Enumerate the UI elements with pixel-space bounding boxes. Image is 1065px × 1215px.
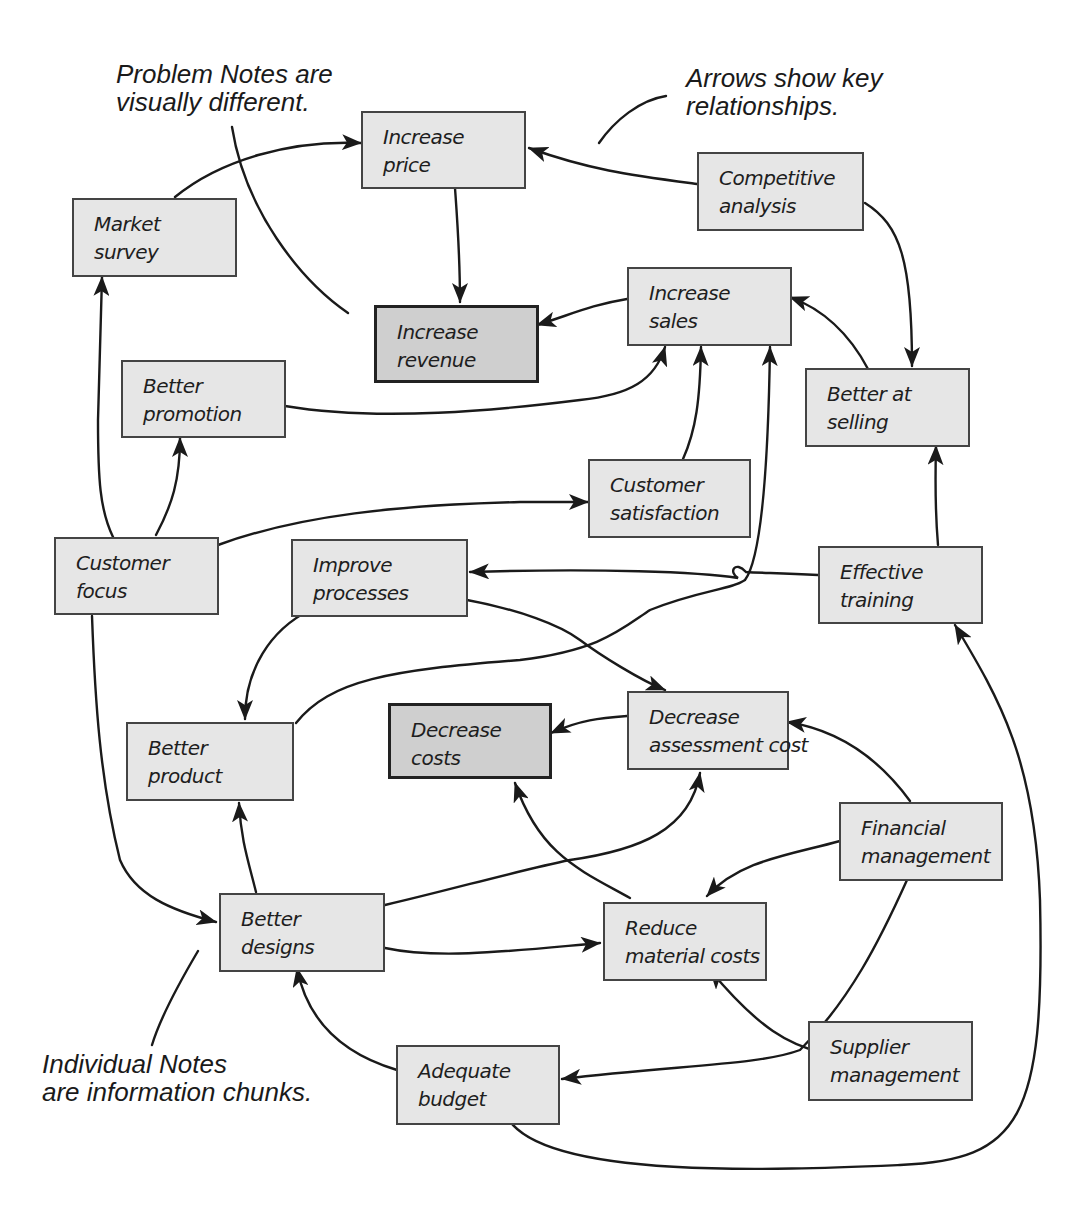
arrow-customer-satisfaction-to-increase-sales — [683, 347, 701, 459]
arrow-effective-training-to-better-at-selling — [935, 446, 938, 545]
arrow-reduce-material-costs-to-decrease-costs — [515, 783, 630, 898]
callout-text: Problem Notes are — [116, 60, 333, 88]
arrow-effective-training-to-improve-processes — [470, 567, 818, 578]
callout-text: visually different. — [116, 88, 333, 116]
note-label: Increase — [649, 279, 790, 307]
callout-text: Individual Notes — [42, 1050, 312, 1078]
callout-leader-problem — [232, 127, 348, 313]
note-supplier-management[interactable]: Supplier management — [808, 1021, 973, 1101]
note-label: management — [830, 1061, 971, 1089]
note-customer-focus[interactable]: Customer focus — [54, 537, 219, 615]
note-increase-sales[interactable]: Increase sales — [627, 267, 792, 346]
note-label: training — [840, 586, 981, 614]
note-label: promotion — [143, 400, 284, 428]
arrow-better-designs-to-decrease-assessment-cost — [385, 773, 700, 905]
arrow-better-designs-to-reduce-material-costs — [385, 943, 600, 954]
arrow-supplier-management-to-reduce-material-costs — [710, 970, 823, 1053]
note-label: sales — [649, 307, 790, 335]
note-adequate-budget[interactable]: Adequate budget — [396, 1045, 560, 1125]
callout-text: are information chunks. — [42, 1078, 312, 1106]
note-effective-training[interactable]: Effective training — [818, 546, 983, 624]
note-label: Increase — [383, 123, 524, 151]
note-label: Increase — [397, 318, 536, 346]
arrow-decrease-assessment-cost-to-decrease-costs — [551, 716, 627, 733]
arrow-competitive-analysis-to-better-at-selling — [865, 203, 912, 366]
callout-leader-individual — [152, 951, 198, 1045]
note-label: Adequate — [418, 1057, 558, 1085]
note-label: Improve — [313, 551, 466, 579]
note-increase-revenue[interactable]: Increase revenue — [374, 305, 539, 383]
callout-text: Arrows show key — [686, 64, 883, 92]
note-label: management — [861, 842, 1001, 870]
note-market-survey[interactable]: Market survey — [72, 198, 237, 277]
note-label: survey — [94, 238, 235, 266]
note-label: assessment cost — [649, 731, 787, 759]
callout-arrows: Arrows show key relationships. — [686, 64, 883, 120]
note-label: material costs — [625, 942, 765, 970]
note-financial-management[interactable]: Financial management — [839, 802, 1003, 881]
note-label: Customer — [610, 471, 749, 499]
arrow-increase-price-to-increase-revenue — [455, 188, 460, 302]
note-label: focus — [76, 577, 217, 605]
note-label: price — [383, 151, 524, 179]
note-label: budget — [418, 1085, 558, 1113]
note-label: Supplier — [830, 1033, 971, 1061]
arrow-customer-focus-to-better-promotion — [156, 438, 180, 535]
callout-individual-notes: Individual Notes are information chunks. — [42, 1050, 312, 1106]
note-better-at-selling[interactable]: Better at selling — [805, 368, 970, 447]
note-improve-processes[interactable]: Improve processes — [291, 539, 468, 617]
note-better-promotion[interactable]: Better promotion — [121, 360, 286, 438]
note-label: designs — [241, 933, 383, 961]
note-label: Reduce — [625, 914, 765, 942]
arrow-better-at-selling-to-increase-sales — [790, 297, 868, 369]
note-label: product — [148, 762, 292, 790]
callout-problem-notes: Problem Notes are visually different. — [116, 60, 333, 116]
note-competitive-analysis[interactable]: Competitive analysis — [697, 152, 864, 231]
note-label: Financial — [861, 814, 1001, 842]
arrow-better-designs-to-better-product — [239, 803, 256, 892]
arrow-increase-sales-to-increase-revenue — [537, 299, 627, 325]
note-label: processes — [313, 579, 466, 607]
note-label: analysis — [719, 192, 862, 220]
note-decrease-assessment-cost[interactable]: Decrease assessment cost — [627, 691, 789, 770]
arrow-customer-focus-to-market-survey — [98, 277, 113, 537]
note-label: Competitive — [719, 164, 862, 192]
note-label: revenue — [397, 346, 536, 374]
note-better-product[interactable]: Better product — [126, 722, 294, 801]
note-better-designs[interactable]: Better designs — [219, 893, 385, 972]
note-label: Decrease — [649, 703, 787, 731]
note-label: Customer — [76, 549, 217, 577]
note-label: costs — [411, 744, 549, 772]
note-increase-price[interactable]: Increase price — [361, 111, 526, 189]
note-label: Better — [148, 734, 292, 762]
note-decrease-costs[interactable]: Decrease costs — [388, 703, 552, 779]
note-label: Market — [94, 210, 235, 238]
arrow-market-survey-to-increase-price — [175, 143, 361, 197]
note-label: Better — [241, 905, 383, 933]
note-label: Effective — [840, 558, 981, 586]
note-label: satisfaction — [610, 499, 749, 527]
note-reduce-material-costs[interactable]: Reduce material costs — [603, 902, 767, 981]
arrow-competitive-analysis-to-increase-price — [529, 148, 697, 184]
note-label: Better — [143, 372, 284, 400]
note-label: selling — [827, 408, 968, 436]
note-label: Decrease — [411, 716, 549, 744]
note-label: Better at — [827, 380, 968, 408]
callout-text: relationships. — [686, 92, 883, 120]
arrow-financial-management-to-reduce-material-costs — [707, 841, 840, 896]
note-customer-satisfaction[interactable]: Customer satisfaction — [588, 459, 751, 538]
arrow-improve-processes-to-decrease-assessment-cost — [467, 600, 665, 690]
arrow-improve-processes-to-better-product — [245, 610, 310, 719]
callout-leader-arrows — [599, 96, 666, 143]
